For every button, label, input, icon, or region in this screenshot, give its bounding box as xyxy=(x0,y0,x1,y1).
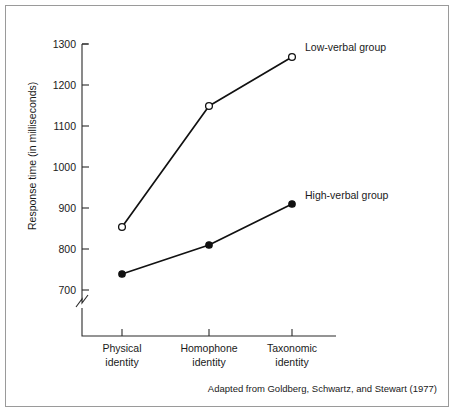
y-axis-line xyxy=(82,44,88,300)
series-high-verbal-group: High-verbal group xyxy=(119,189,389,277)
y-tick-label-1100: 1100 xyxy=(53,120,76,132)
x-axis-ticks xyxy=(122,329,292,336)
data-point-high-verbal-homophone xyxy=(206,242,212,248)
data-point-low-verbal-homophone xyxy=(206,103,213,110)
series-label-high-verbal: High-verbal group xyxy=(305,189,389,201)
x-axis-category-labels: Physical identity Homophone identity Tax… xyxy=(102,342,317,368)
data-point-high-verbal-physical xyxy=(119,271,125,277)
source-attribution: Adapted from Goldberg, Schwartz, and Ste… xyxy=(208,383,437,394)
figure-container: Response time (in milliseconds) 1300 120… xyxy=(0,0,455,413)
data-point-high-verbal-taxonomic xyxy=(289,201,295,207)
line-chart: Response time (in milliseconds) 1300 120… xyxy=(0,0,455,413)
y-tick-label-1000: 1000 xyxy=(53,161,77,173)
series-low-verbal-group: Low-verbal group xyxy=(119,41,387,230)
data-point-low-verbal-taxonomic xyxy=(289,54,296,61)
x-category-label-physical-line2: identity xyxy=(105,356,139,368)
y-axis-tick-labels: 1300 1200 1100 1000 900 800 700 xyxy=(53,38,77,296)
x-category-label-physical: Physical xyxy=(102,342,141,354)
y-tick-label-1300: 1300 xyxy=(53,38,77,50)
x-category-label-taxonomic-line2: identity xyxy=(275,356,309,368)
y-tick-label-800: 800 xyxy=(58,243,76,255)
y-tick-label-900: 900 xyxy=(58,202,76,214)
y-tick-label-1200: 1200 xyxy=(53,79,77,91)
x-category-label-homophone: Homophone xyxy=(180,342,237,354)
series-label-low-verbal: Low-verbal group xyxy=(305,41,386,53)
series-high-verbal-line xyxy=(122,204,292,274)
y-tick-label-700: 700 xyxy=(58,284,76,296)
series-low-verbal-line xyxy=(122,57,292,227)
x-category-label-homophone-line2: identity xyxy=(192,356,226,368)
x-category-label-taxonomic: Taxonomic xyxy=(267,342,317,354)
y-axis-ticks xyxy=(82,44,89,290)
y-axis-title: Response time (in milliseconds) xyxy=(26,82,38,230)
data-point-low-verbal-physical xyxy=(119,224,126,231)
